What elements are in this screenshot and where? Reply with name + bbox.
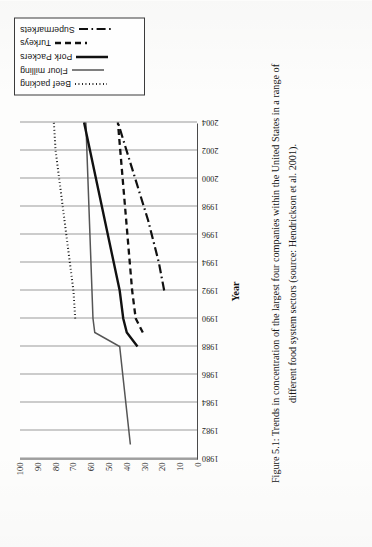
y-tick-label: 70 xyxy=(69,462,78,471)
y-tick-label: 10 xyxy=(176,462,185,471)
legend-entry-label: Pork Packers xyxy=(20,51,72,61)
legend-swatch-solid-icon xyxy=(75,51,109,62)
y-tick-label: 50 xyxy=(105,462,114,471)
plot-area: 0102030405060708090100 19801982198419861… xyxy=(20,123,198,459)
y-tick-label: 0 xyxy=(194,462,203,466)
x-tick-label: 1998 xyxy=(202,202,218,211)
x-tick-label: 1990 xyxy=(202,314,218,323)
legend-entry-label: Turkeys xyxy=(20,37,51,47)
x-tick-label: 2004 xyxy=(202,118,218,127)
x-tick-label: 2000 xyxy=(202,174,218,183)
legend-entry-label: Beef packing xyxy=(20,78,71,88)
y-tick-label: 30 xyxy=(140,462,149,471)
x-tick-label: 1994 xyxy=(202,258,218,267)
legend-entry-turkeys: Turkeys xyxy=(20,36,139,50)
y-tick-label: 40 xyxy=(123,462,132,471)
x-tick-label: 1988 xyxy=(202,342,218,351)
series-line-supermarkets xyxy=(118,122,164,290)
y-tick-label: 100 xyxy=(16,462,25,475)
legend-swatch-dash-dot-icon xyxy=(78,23,112,34)
x-tick-label: 1992 xyxy=(202,286,218,295)
y-tick-label: 20 xyxy=(158,462,167,471)
x-tick-label: 1980 xyxy=(202,454,218,463)
x-tick-label: 2002 xyxy=(202,146,218,155)
y-tick-label: 80 xyxy=(51,462,60,471)
y-tick-label: 90 xyxy=(34,462,43,471)
legend-entry-flour-milling: Flour milling xyxy=(20,63,139,77)
x-axis-title: Year xyxy=(230,123,241,459)
legend-entry-beef-packing: Beef packing xyxy=(20,76,139,90)
legend-swatch-dotted-icon xyxy=(74,78,108,89)
series-line-beef-packing xyxy=(54,122,75,318)
legend-entry-supermarkets: Supermarkets xyxy=(20,22,139,36)
y-tick-label: 60 xyxy=(87,462,96,471)
legend-swatch-dashed-icon xyxy=(54,37,88,48)
data-series-layer xyxy=(20,122,198,458)
x-tick-label: 1996 xyxy=(202,230,218,239)
legend-entry-label: Flour milling xyxy=(20,65,68,75)
chart-legend: Beef packingFlour millingPork PackersTur… xyxy=(14,17,145,95)
line-chart-figure: 0102030405060708090100 19801982198419861… xyxy=(14,113,244,505)
figure-caption: Figure 5.1: Trends in concentration of t… xyxy=(268,55,301,491)
legend-entry-pork-packers: Pork Packers xyxy=(20,49,139,63)
book-page: 0102030405060708090100 19801982198419861… xyxy=(0,0,372,547)
legend-swatch-solid-icon xyxy=(71,64,105,75)
x-tick-label: 1986 xyxy=(202,370,218,379)
x-tick-label: 1984 xyxy=(202,398,218,407)
series-line-flour-milling xyxy=(86,122,131,444)
x-tick-label: 1982 xyxy=(202,426,218,435)
legend-entry-label: Supermarkets xyxy=(20,24,75,34)
